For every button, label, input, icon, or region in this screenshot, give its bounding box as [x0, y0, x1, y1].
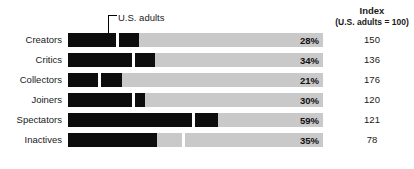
- index-value: 120: [330, 94, 414, 105]
- bar-fill: [68, 133, 157, 147]
- category-label: Spectators: [0, 114, 62, 125]
- percent-label: 21%: [300, 75, 319, 86]
- bar-track: 35%: [68, 133, 323, 147]
- chart-row: Critics34%136: [0, 52, 414, 72]
- bar-track: 34%: [68, 53, 323, 67]
- category-label: Inactives: [0, 134, 62, 145]
- index-header-subtitle: (U.S. adults = 100): [330, 17, 414, 28]
- bar-fill: [68, 53, 155, 67]
- benchmark-tick: [132, 53, 135, 67]
- percent-label: 35%: [300, 135, 319, 146]
- bar-fill: [68, 73, 122, 87]
- category-label: Creators: [0, 34, 62, 45]
- category-label: Joiners: [0, 94, 62, 105]
- chart-row: Collectors21%176: [0, 72, 414, 92]
- percent-label: 28%: [300, 35, 319, 46]
- index-header-title: Index: [330, 5, 414, 17]
- benchmark-tick: [116, 33, 119, 47]
- index-value: 121: [330, 114, 414, 125]
- chart-rows: Creators28%150Critics34%136Collectors21%…: [0, 32, 414, 152]
- category-label: Critics: [0, 54, 62, 65]
- benchmark-tick: [98, 73, 101, 87]
- chart-row: Spectators59%121: [0, 112, 414, 132]
- benchmark-tick: [132, 93, 135, 107]
- benchmark-label: U.S. adults: [118, 12, 164, 23]
- bar-track: 21%: [68, 73, 323, 87]
- category-label: Collectors: [0, 74, 62, 85]
- index-value: 78: [330, 134, 414, 145]
- index-column-header: Index (U.S. adults = 100): [330, 5, 414, 28]
- chart-row: Joiners30%120: [0, 92, 414, 112]
- bar-track: 28%: [68, 33, 323, 47]
- index-bar-chart: Index (U.S. adults = 100) U.S. adults Cr…: [0, 0, 414, 169]
- bar-fill: [68, 113, 218, 127]
- chart-row: Inactives35%78: [0, 132, 414, 152]
- bar-track: 59%: [68, 113, 323, 127]
- percent-label: 34%: [300, 55, 319, 66]
- chart-row: Creators28%150: [0, 32, 414, 52]
- index-value: 150: [330, 34, 414, 45]
- benchmark-tick: [182, 133, 185, 147]
- index-value: 136: [330, 54, 414, 65]
- bar-fill: [68, 33, 139, 47]
- bar-track: 30%: [68, 93, 323, 107]
- benchmark-tick: [192, 113, 195, 127]
- percent-label: 30%: [300, 95, 319, 106]
- index-value: 176: [330, 74, 414, 85]
- percent-label: 59%: [300, 115, 319, 126]
